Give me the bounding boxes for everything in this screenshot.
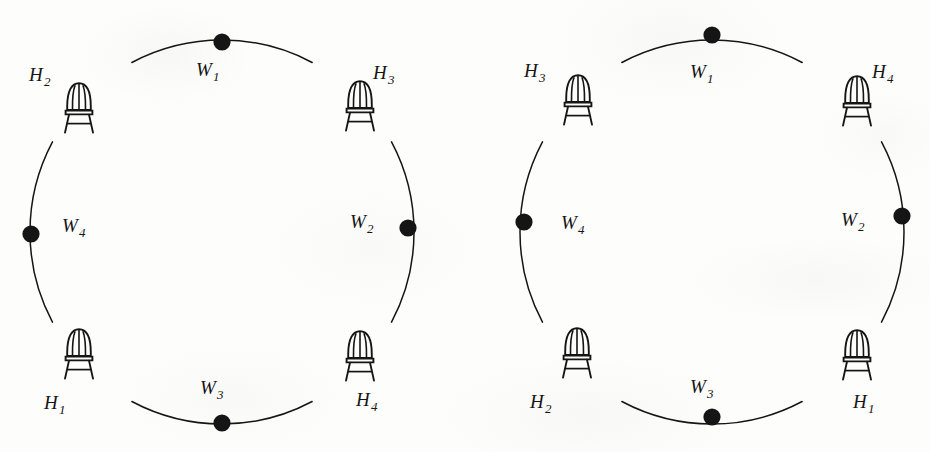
label-subscript: 1 [59, 402, 66, 417]
label-base: W [841, 209, 857, 230]
chair-icon-h3 [564, 75, 592, 124]
chair-icon-h3 [346, 81, 374, 130]
label-base: W [561, 212, 577, 233]
wife-label-w4: W4 [561, 213, 584, 232]
label-base: H [530, 391, 544, 412]
label-subscript: 2 [367, 221, 374, 236]
label-subscript: 3 [539, 70, 546, 85]
wife-dot-w4 [22, 225, 39, 242]
husband-label-h2: H2 [530, 392, 551, 411]
wife-dot-w3 [213, 414, 230, 431]
wife-dot-w1 [213, 33, 230, 50]
wife-label-w2: W2 [350, 212, 373, 231]
label-subscript: 2 [545, 401, 552, 416]
label-base: W [62, 215, 78, 236]
chair-icon-h1 [843, 330, 871, 379]
chair-icon-h4 [346, 331, 374, 380]
wife-label-w1: W1 [196, 60, 219, 79]
label-subscript: 3 [388, 72, 395, 87]
label-subscript: 2 [858, 219, 865, 234]
circle-arc-segment [520, 142, 542, 322]
label-base: H [373, 62, 387, 83]
label-base: W [350, 211, 366, 232]
label-subscript: 3 [707, 386, 714, 401]
chair-icon-h2 [65, 83, 93, 132]
label-subscript: 1 [868, 401, 875, 416]
chair-icon-h4 [843, 76, 871, 125]
label-base: W [690, 376, 706, 397]
label-base: H [872, 61, 886, 82]
chair-icon-h1 [65, 329, 93, 378]
label-subscript: 1 [707, 71, 714, 86]
chair-icon-h2 [563, 328, 591, 377]
label-subscript: 4 [887, 71, 894, 86]
label-base: W [196, 59, 212, 80]
husband-label-h4: H4 [356, 390, 377, 409]
husband-label-h1: H1 [44, 393, 65, 412]
label-subscript: 1 [213, 69, 220, 84]
label-base: H [356, 389, 370, 410]
husband-label-h2: H2 [29, 65, 50, 84]
circle-arc-segment [882, 142, 904, 322]
ink-layer [0, 0, 930, 452]
wife-dot-w3 [703, 408, 720, 425]
wife-dot-w2 [399, 219, 416, 236]
label-subscript: 2 [44, 74, 51, 89]
label-base: W [200, 377, 216, 398]
wife-label-w4: W4 [62, 216, 85, 235]
husband-label-h3: H3 [524, 61, 545, 80]
label-base: H [29, 64, 43, 85]
label-base: H [853, 391, 867, 412]
wife-dot-w1 [703, 26, 720, 43]
label-subscript: 4 [371, 399, 378, 414]
husband-label-h1: H1 [853, 392, 874, 411]
husband-label-h3: H3 [373, 63, 394, 82]
wife-label-w3: W3 [200, 378, 223, 397]
label-base: H [44, 392, 58, 413]
figure-canvas: W1H3W2H4W3H1W4H2W1H4W2H1W3H2W4H3 [0, 0, 930, 452]
wife-dot-w4 [515, 213, 532, 230]
label-subscript: 4 [79, 225, 86, 240]
wife-label-w3: W3 [690, 377, 713, 396]
wife-dot-w2 [893, 207, 910, 224]
husband-label-h4: H4 [872, 62, 893, 81]
wife-label-w2: W2 [841, 210, 864, 229]
label-subscript: 3 [217, 387, 224, 402]
label-base: W [690, 61, 706, 82]
label-subscript: 4 [578, 222, 585, 237]
wife-label-w1: W1 [690, 62, 713, 81]
label-base: H [524, 60, 538, 81]
